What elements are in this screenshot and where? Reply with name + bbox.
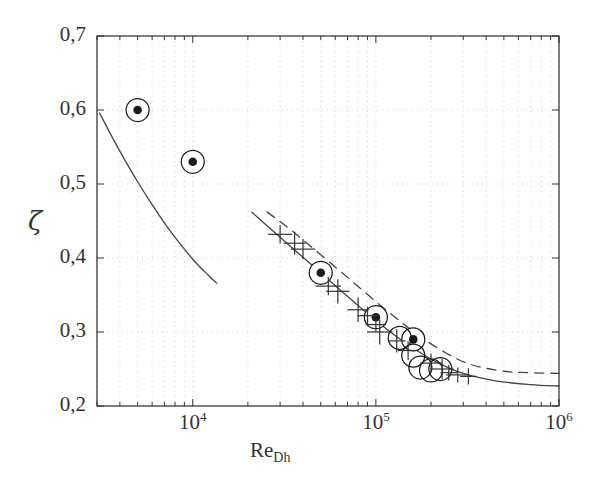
data-point-circle-with-filled-dot bbox=[181, 150, 204, 173]
x-tick-exponent: 4 bbox=[200, 409, 207, 424]
x-tick-label: 106 bbox=[529, 410, 589, 435]
x-axis-label-subscript: Dh bbox=[273, 450, 290, 465]
x-tick-mantissa: 10 bbox=[362, 410, 383, 434]
chart-figure bbox=[0, 0, 609, 493]
x-tick-mantissa: 10 bbox=[545, 410, 566, 434]
x-axis-label: ReDh bbox=[250, 438, 290, 463]
x-tick-label: 105 bbox=[346, 410, 406, 435]
y-axis-label: ζ bbox=[28, 206, 42, 236]
x-axis-label-base: Re bbox=[250, 438, 273, 462]
y-tick-label: 0,6 bbox=[30, 96, 86, 121]
y-tick-label: 0,2 bbox=[30, 392, 86, 417]
x-tick-mantissa: 10 bbox=[179, 410, 200, 434]
y-tick-label: 0,4 bbox=[30, 244, 86, 269]
y-tick-label: 0,5 bbox=[30, 170, 86, 195]
x-tick-exponent: 6 bbox=[566, 409, 573, 424]
y-tick-label: 0,3 bbox=[30, 318, 86, 343]
x-tick-label: 104 bbox=[163, 410, 223, 435]
data-point-circle-with-filled-dot bbox=[126, 99, 149, 122]
x-tick-exponent: 5 bbox=[383, 409, 390, 424]
y-tick-label: 0,7 bbox=[30, 22, 86, 47]
figure-background bbox=[0, 0, 609, 493]
